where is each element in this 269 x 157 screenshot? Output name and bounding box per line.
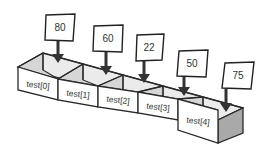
value-card-3: 50 — [177, 50, 208, 96]
card-value-2: 22 — [143, 42, 155, 53]
card-value-3: 50 — [186, 58, 198, 69]
card-value-1: 60 — [102, 33, 114, 44]
array-diagram: test[0] test[1] test[2] test[3] test[4] — [0, 0, 269, 157]
card-value-4: 75 — [232, 70, 244, 81]
value-card-4: 75 — [220, 62, 254, 112]
card-value-0: 80 — [54, 22, 66, 33]
value-card-2: 22 — [136, 34, 164, 83]
